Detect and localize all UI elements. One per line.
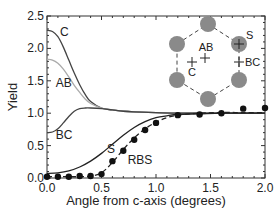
data-point xyxy=(77,173,83,179)
y-tick-label: 1.0 xyxy=(27,106,44,120)
y-tick-label: 0.5 xyxy=(27,139,44,153)
yield-vs-angle-chart: 0.00.51.01.52.0 0.00.51.01.52.02.5 Angle… xyxy=(0,0,275,212)
y-tick-label: 0.0 xyxy=(27,171,44,185)
inset-label-c: C xyxy=(188,66,196,78)
series-s-label: S xyxy=(107,142,115,156)
data-point xyxy=(109,158,115,164)
site-bc-marker xyxy=(234,57,244,67)
y-tick-label: 2.5 xyxy=(27,9,44,23)
y-tick-label: 2.0 xyxy=(27,41,44,55)
atom-upper-left xyxy=(169,36,185,52)
series-labels: CABBCSRBS xyxy=(56,25,153,167)
series-rbs-label: RBS xyxy=(128,153,153,167)
inset-label-s: S xyxy=(246,29,253,41)
y-tick-label: 1.5 xyxy=(27,74,44,88)
hexagon-inset: AB C S BC xyxy=(169,16,260,107)
data-series xyxy=(44,30,268,180)
data-point xyxy=(153,120,159,126)
data-point xyxy=(55,174,61,180)
series-ab xyxy=(47,59,265,113)
data-point xyxy=(87,173,93,179)
data-point xyxy=(240,105,246,111)
y-tick-labels: 0.00.51.01.52.02.5 xyxy=(27,9,44,185)
y-axis-label: Yield xyxy=(5,83,20,111)
data-point xyxy=(120,148,126,154)
atom-lower-left xyxy=(169,72,185,88)
data-point xyxy=(175,112,181,118)
atom-lower-right xyxy=(231,72,247,88)
data-point xyxy=(66,174,72,180)
inset-label-ab: AB xyxy=(199,41,214,53)
atom-top xyxy=(200,16,216,32)
hexagon-outline xyxy=(177,24,239,99)
atom-bottom xyxy=(200,91,216,107)
inset-label-bc: BC xyxy=(245,56,260,68)
data-point xyxy=(131,137,137,143)
data-point xyxy=(262,105,268,111)
site-ab-marker xyxy=(200,53,210,63)
x-tick-label: 2.0 xyxy=(257,181,274,195)
data-point xyxy=(98,171,104,177)
series-ab-label: AB xyxy=(56,76,72,90)
data-point xyxy=(142,127,148,133)
x-axis-label: Angle from c-axis (degrees) xyxy=(66,193,226,208)
series-c-label: C xyxy=(60,25,69,39)
data-point xyxy=(218,110,224,116)
data-point xyxy=(44,174,50,180)
series-bc-label: BC xyxy=(56,128,73,142)
data-point xyxy=(196,111,202,117)
